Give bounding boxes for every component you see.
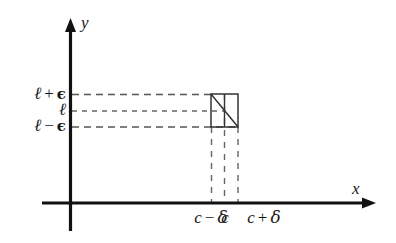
plus-operator: +	[41, 84, 57, 103]
x-tick-label-c-plus-delta: c+δ	[247, 209, 280, 226]
delta-symbol-right: δ	[270, 207, 280, 227]
coordinate-axes	[42, 18, 376, 231]
x-axis-arrowhead	[362, 198, 376, 209]
x-axis-label: x	[352, 180, 360, 197]
x-tick-label-c: c	[221, 209, 229, 226]
limit-definition-figure: ℓ+ϵ ℓ ℓ−ϵ c−δ c c+δ y x	[0, 0, 396, 243]
y-axis-arrowhead	[65, 18, 76, 32]
c-symbol-left: c	[194, 208, 202, 227]
horizontal-guide-lines	[72, 95, 239, 128]
minus-operator-x: −	[202, 208, 218, 227]
c-symbol-right: c	[247, 208, 255, 227]
c-symbol-center: c	[221, 208, 229, 227]
epsilon-symbol-lower: ϵ	[57, 117, 66, 135]
plus-operator-x: +	[255, 208, 271, 227]
minus-operator: −	[41, 116, 57, 135]
y-axis-label: y	[81, 14, 89, 31]
